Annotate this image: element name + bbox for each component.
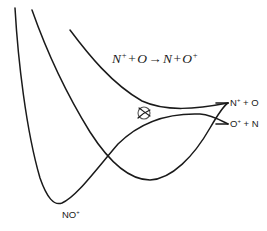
reaction-equation-label: N++O→N+O+	[112, 52, 198, 66]
product-2-symbol: O	[182, 51, 192, 66]
well-charge: +	[76, 209, 79, 215]
reaction-plus-1: +	[127, 51, 137, 66]
asymptote-upper-species-2: O	[251, 97, 258, 108]
potential-energy-diagram: N++O→N+O+ N+ + O O+ + N NO+	[0, 0, 267, 231]
product-2-charge: +	[192, 51, 198, 60]
asymptote-label-lower: O+ + N	[230, 119, 259, 129]
asymptote-lower-charge: +	[237, 118, 240, 124]
asymptote-upper-species-1: N	[230, 97, 237, 108]
well-minimum-label: NO+	[62, 210, 80, 220]
asymptote-upper-charge: +	[237, 97, 240, 103]
asymptote-lower-plus: +	[243, 118, 249, 129]
asymptote-label-upper: N+ + O	[230, 98, 259, 108]
curve-no-plus-well	[15, 8, 228, 204]
reaction-arrow-icon: →	[147, 51, 163, 66]
well-species: NO	[62, 209, 76, 220]
product-1-symbol: N	[163, 51, 172, 66]
asymptote-lower-species-2: N	[252, 118, 259, 129]
reaction-plus-2: +	[172, 51, 182, 66]
reactant-1-symbol: N	[112, 51, 121, 66]
asymptote-upper-plus: +	[243, 97, 249, 108]
reactant-2-symbol: O	[137, 51, 147, 66]
curve-upper-repulsive	[70, 30, 228, 108]
curve-repulsive-crossing	[32, 10, 228, 180]
curves-canvas	[0, 0, 267, 231]
